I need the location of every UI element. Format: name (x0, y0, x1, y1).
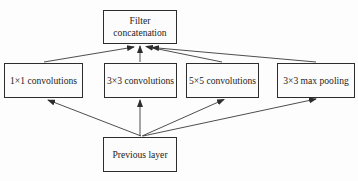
arrow-prev-to-maxpool (143, 99, 316, 136)
node-3x3-convolutions-label: 3×3 convolutions (107, 75, 174, 87)
arrow-prev-to-conv1 (48, 100, 141, 136)
arrow-conv5-to-filter-concat (146, 47, 222, 63)
node-1x1-convolutions-label: 1×1 convolutions (10, 75, 77, 87)
node-filter-concatenation-label: Filter concatenation (104, 15, 176, 39)
inception-module-diagram: Filter concatenation 1×1 convolutions 3×… (0, 0, 358, 181)
node-1x1-convolutions: 1×1 convolutions (4, 63, 83, 98)
node-5x5-convolutions: 5×5 convolutions (186, 63, 259, 98)
node-3x3-max-pooling-label: 3×3 max pooling (283, 75, 349, 87)
arrow-conv1-to-filter-concat (44, 47, 134, 62)
node-5x5-convolutions-label: 5×5 convolutions (189, 75, 256, 87)
node-previous-layer-label: Previous layer (112, 149, 167, 161)
node-3x3-max-pooling: 3×3 max pooling (277, 63, 355, 98)
node-previous-layer: Previous layer (103, 137, 177, 172)
node-3x3-convolutions: 3×3 convolutions (104, 63, 177, 98)
arrow-maxpool-to-filter-concat (152, 48, 316, 63)
arrow-prev-to-conv5 (142, 100, 224, 137)
node-filter-concatenation: Filter concatenation (103, 10, 177, 44)
